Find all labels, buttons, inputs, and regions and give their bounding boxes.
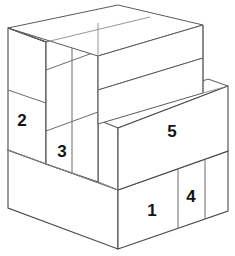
block-label-3: 3 [57, 142, 66, 161]
block5-left-face [98, 120, 118, 190]
block-diagram-canvas: 2 3 5 1 4 [0, 0, 235, 256]
block-label-1: 1 [147, 201, 156, 220]
block-label-4: 4 [186, 187, 196, 206]
block-label-2: 2 [17, 111, 26, 130]
block-label-5: 5 [167, 122, 176, 141]
isometric-block-figure: 2 3 5 1 4 [0, 0, 235, 256]
